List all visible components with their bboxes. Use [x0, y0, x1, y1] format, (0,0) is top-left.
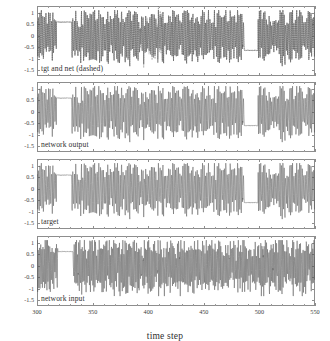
y-tick-label: 0.5 [26, 21, 34, 27]
series-line [37, 86, 315, 142]
y-tick-label: 0.5 [26, 251, 34, 257]
y-tick-label: 1 [31, 86, 34, 92]
x-tick-label: 450 [199, 309, 208, 316]
y-tick-label: -0.5 [24, 274, 34, 280]
y-tick-label: 0.5 [26, 174, 34, 180]
y-tick-label: 0 [31, 33, 34, 39]
series-line-dashed [37, 6, 315, 67]
y-tick-label: 1 [31, 163, 34, 169]
panel-label-tgt-and-net: tgt and net (dashed) [41, 65, 103, 73]
y-tick-label: -1.5 [24, 143, 34, 149]
x-tick [315, 73, 316, 76]
x-tick [315, 226, 316, 229]
y-tick-label: 1 [31, 240, 34, 246]
x-tick [315, 159, 316, 162]
series-line [37, 240, 315, 296]
y-tick-label: -0.5 [24, 44, 34, 50]
y-tick-label: -1 [29, 132, 34, 138]
trace-target [37, 159, 315, 229]
x-tick [315, 236, 316, 239]
y-tick-label: 0 [31, 263, 34, 269]
y-tick-label: 0 [31, 186, 34, 192]
y-tick-label: -0.5 [24, 120, 34, 126]
x-tick [315, 303, 316, 306]
y-tick-label: -1.5 [24, 67, 34, 73]
x-tick [315, 149, 316, 152]
y-tick-label: 1 [31, 10, 34, 16]
series-line [37, 10, 315, 66]
panel-label-target: target [41, 218, 59, 226]
y-tick-label: -1 [29, 286, 34, 292]
panel-label-network-output: network output [41, 141, 89, 149]
x-tick-label: 300 [32, 309, 41, 316]
x-tick-label: 350 [88, 309, 97, 316]
subplot-target: 10.50-0.5-1-1.5 [37, 159, 315, 229]
y-tick-label: -1.5 [24, 297, 34, 303]
series-line [37, 163, 315, 219]
y-tick-label: -1 [29, 209, 34, 215]
x-tick [315, 6, 316, 9]
x-tick-label: 500 [255, 309, 264, 316]
y-tick-label: -0.5 [24, 197, 34, 203]
x-tick [315, 82, 316, 85]
y-tick-label: 0.5 [26, 97, 34, 103]
y-tick-label: 0 [31, 109, 34, 115]
x-tick-label: 400 [144, 309, 153, 316]
y-tick-label: -1 [29, 56, 34, 62]
y-tick-label: -1.5 [24, 220, 34, 226]
panel-label-network-input: network input [41, 295, 85, 303]
x-axis-title: time step [0, 331, 330, 341]
x-tick-label: 550 [310, 309, 319, 316]
